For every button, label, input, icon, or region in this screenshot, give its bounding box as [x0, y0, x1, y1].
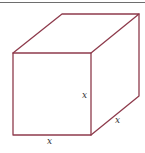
cube-front-face [13, 53, 91, 135]
label-depth: x [115, 115, 120, 125]
cube-diagram: x x x [0, 0, 145, 153]
label-front-bottom: x [47, 136, 52, 146]
cube-top-face [13, 14, 139, 53]
label-front-right: x [82, 90, 87, 100]
